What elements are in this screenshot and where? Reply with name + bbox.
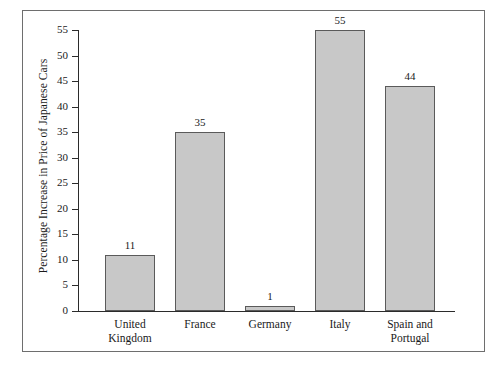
- bar: [105, 255, 155, 311]
- y-axis-tick-label: 30: [40, 152, 68, 163]
- y-axis-tick-mark: [72, 56, 78, 57]
- bar-value-label: 11: [90, 240, 170, 251]
- x-axis-category-label-line: Kingdom: [87, 331, 173, 345]
- x-axis-line: [78, 311, 455, 312]
- y-axis-tick-label-text: 0: [42, 305, 68, 316]
- y-axis-tick-label-text: 25: [42, 177, 68, 188]
- y-axis-tick-label-text: 10: [42, 254, 68, 265]
- y-axis-line: [78, 30, 79, 312]
- y-axis-tick-mark: [72, 209, 78, 210]
- bar-value-label: 44: [370, 71, 450, 82]
- y-axis-tick-label: 20: [40, 203, 68, 214]
- bar: [315, 30, 365, 311]
- y-axis-tick-mark: [72, 158, 78, 159]
- y-axis-tick-mark: [72, 234, 78, 235]
- y-axis-tick-label-text: 40: [42, 101, 68, 112]
- y-axis-tick-mark: [72, 311, 78, 312]
- y-axis-tick-mark: [72, 81, 78, 82]
- y-axis-tick-label: 10: [40, 254, 68, 265]
- y-axis-tick-label-text: 45: [42, 75, 68, 86]
- y-axis-tick-label-text: 15: [42, 228, 68, 239]
- bar-value-label: 1: [230, 291, 310, 302]
- y-axis-tick-label: 40: [40, 101, 68, 112]
- y-axis-tick-label-text: 5: [42, 279, 68, 290]
- bar: [175, 132, 225, 311]
- y-axis-tick-mark: [72, 285, 78, 286]
- y-axis-tick-label-text: 50: [42, 50, 68, 61]
- y-axis-tick-mark: [72, 30, 78, 31]
- y-axis-tick-mark: [72, 132, 78, 133]
- bar-chart-figure: Percentage Increase in Price of Japanese…: [0, 0, 488, 370]
- y-axis-tick-label: 0: [40, 305, 68, 316]
- y-axis-tick-label-text: 20: [42, 203, 68, 214]
- x-axis-category-label-line: Portugal: [367, 331, 453, 345]
- bar: [385, 86, 435, 311]
- y-axis-tick-label: 5: [40, 279, 68, 290]
- y-axis-tick-label: 25: [40, 177, 68, 188]
- bar: [245, 306, 295, 311]
- bar-value-label: 55: [300, 15, 380, 26]
- y-axis-tick-label: 45: [40, 75, 68, 86]
- y-axis-tick-mark: [72, 107, 78, 108]
- y-axis-tick-label: 50: [40, 50, 68, 61]
- y-axis-tick-mark: [72, 183, 78, 184]
- y-axis-tick-mark: [72, 260, 78, 261]
- y-axis-tick-label-text: 35: [42, 126, 68, 137]
- y-axis-tick-label-text: 55: [42, 24, 68, 35]
- y-axis-tick-label: 55: [40, 24, 68, 35]
- y-axis-tick-label: 15: [40, 228, 68, 239]
- y-axis-tick-label-text: 30: [42, 152, 68, 163]
- y-axis-tick-label: 35: [40, 126, 68, 137]
- x-axis-category-label: Spain andPortugal: [367, 317, 453, 345]
- x-axis-category-label-line: Spain and: [367, 317, 453, 331]
- bar-value-label: 35: [160, 117, 240, 128]
